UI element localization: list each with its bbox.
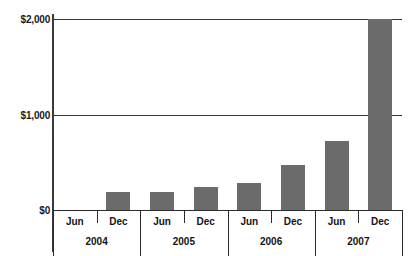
y-axis-tick-label: $2,000 <box>21 14 50 25</box>
x-axis-month-tick <box>358 210 359 223</box>
x-axis-year-separator <box>402 210 403 256</box>
x-axis-year-label: 2007 <box>347 236 369 247</box>
x-axis-year-separator <box>228 210 229 256</box>
y-axis-tick-label: $1,000 <box>21 109 50 120</box>
x-axis-month-label: Jun <box>328 216 346 227</box>
bar <box>368 19 392 210</box>
x-axis-year-separator <box>140 210 141 256</box>
x-axis-month-tick <box>184 210 185 223</box>
gridline <box>53 115 402 116</box>
x-axis-year-separator <box>315 210 316 256</box>
x-axis-month-label: Dec <box>371 216 389 227</box>
gridline <box>53 19 402 20</box>
bar <box>194 187 218 210</box>
x-axis-month-label: Jun <box>153 216 171 227</box>
x-axis-year-label: 2004 <box>86 236 108 247</box>
x-axis-month-tick <box>271 210 272 223</box>
x-axis-year-label: 2006 <box>260 236 282 247</box>
x-axis-month-label: Jun <box>240 216 258 227</box>
plot-area <box>53 19 402 210</box>
x-axis-month-tick <box>97 210 98 223</box>
y-axis-tick-label: $0 <box>39 205 50 216</box>
x-axis-month-label: Jun <box>66 216 84 227</box>
x-axis-year-separator <box>53 210 54 256</box>
x-axis-year-label: 2005 <box>173 236 195 247</box>
x-axis-month-label: Dec <box>284 216 302 227</box>
bar <box>150 192 174 210</box>
bar <box>281 165 305 210</box>
bar <box>325 141 349 210</box>
x-axis-month-label: Dec <box>197 216 215 227</box>
bar-chart: $0$1,000$2,000 JunDecJunDecJunDecJunDec2… <box>0 0 412 256</box>
x-axis-month-label: Dec <box>109 216 127 227</box>
bar <box>106 192 130 210</box>
bar <box>237 183 261 210</box>
